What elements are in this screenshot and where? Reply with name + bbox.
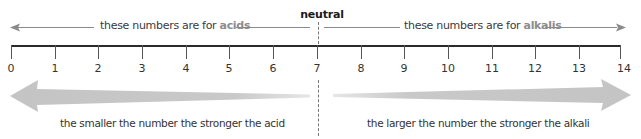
tick-label-11: 11	[480, 62, 504, 75]
neutral-label: neutral	[294, 8, 350, 21]
alkalis-highlight: alkalis	[524, 19, 562, 32]
acid-caption: the smaller the number the stronger the …	[60, 117, 285, 129]
tick-label-7: 7	[305, 62, 329, 75]
alkali-range-label: these numbers are for alkalis	[404, 19, 561, 32]
tick-14	[620, 45, 621, 59]
tick-10	[448, 45, 449, 59]
tick-3	[142, 45, 143, 59]
tick-label-14: 14	[612, 62, 636, 75]
tick-label-8: 8	[349, 62, 373, 75]
tick-label-2: 2	[86, 62, 110, 75]
tick-label-1: 1	[43, 62, 67, 75]
neutral-divider-top	[318, 22, 319, 44]
alkali-range-line-right	[545, 27, 617, 28]
neutral-divider-bottom	[318, 80, 319, 136]
tick-12	[535, 45, 536, 59]
alkali-range-line-left	[324, 27, 400, 28]
acid-range-label: these numbers are for acids	[100, 19, 250, 32]
tick-label-9: 9	[392, 62, 416, 75]
tick-13	[579, 45, 580, 59]
tick-label-4: 4	[174, 62, 198, 75]
tick-11	[492, 45, 493, 59]
tick-5	[229, 45, 230, 59]
tick-label-12: 12	[523, 62, 547, 75]
arrow-right-icon	[614, 22, 626, 33]
tick-label-5: 5	[217, 62, 241, 75]
acid-range-line-right	[236, 27, 310, 28]
tick-4	[186, 45, 187, 59]
acid-range-line-left	[18, 27, 94, 28]
acids-highlight: acids	[220, 19, 251, 32]
tick-label-10: 10	[436, 62, 460, 75]
tick-8	[361, 45, 362, 59]
tick-label-3: 3	[130, 62, 154, 75]
tick-2	[98, 45, 99, 59]
ph-axis-line	[11, 45, 621, 47]
tick-7	[317, 45, 318, 59]
tapered-arrow-left-icon	[10, 78, 310, 114]
tick-9	[404, 45, 405, 59]
tick-1	[55, 45, 56, 59]
tick-label-13: 13	[567, 62, 591, 75]
alkali-caption: the larger the number the stronger the a…	[367, 117, 589, 129]
tick-6	[273, 45, 274, 59]
tick-label-0: 0	[0, 62, 23, 75]
tick-0	[11, 45, 12, 59]
tapered-arrow-right-icon	[333, 77, 631, 113]
tick-label-6: 6	[261, 62, 285, 75]
